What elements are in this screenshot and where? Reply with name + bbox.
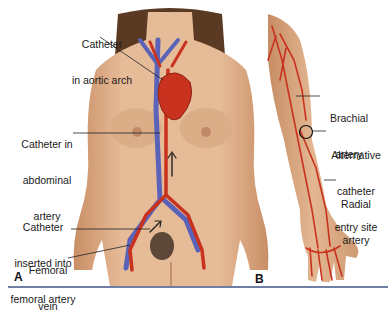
label-radial-artery: Radial artery [334,174,378,258]
panel-letter-b: B [255,272,264,286]
panel-letter-a: A [14,270,23,284]
bottom-rule [8,286,388,288]
label-aortic-arch: Catheter in aortic arch [52,14,152,98]
label-femoral-vein: Femoral vein [24,240,72,314]
